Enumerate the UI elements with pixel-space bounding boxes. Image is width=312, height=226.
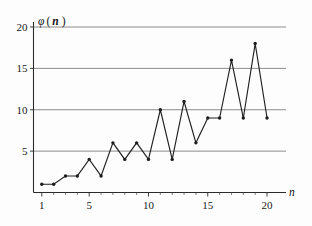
data-point-n12 bbox=[171, 158, 174, 161]
data-point-n16 bbox=[218, 116, 221, 119]
x-tick-marks-group bbox=[42, 193, 267, 197]
data-point-n8 bbox=[123, 158, 126, 161]
data-point-n4 bbox=[76, 174, 79, 177]
y-tick-label-10: 10 bbox=[17, 104, 29, 116]
y-tick-label-15: 15 bbox=[17, 62, 29, 74]
data-point-n1 bbox=[40, 183, 43, 186]
data-point-n7 bbox=[111, 141, 114, 144]
axes-group bbox=[34, 22, 287, 193]
data-point-n15 bbox=[206, 116, 209, 119]
y-axis-title: φ(n) bbox=[38, 15, 66, 28]
data-point-n17 bbox=[230, 58, 233, 61]
x-axis-variable: n bbox=[289, 186, 295, 198]
chart-figure: 5101520 15101520 φ(n) n bbox=[0, 0, 312, 226]
x-tick-label-15: 15 bbox=[202, 199, 214, 211]
data-point-n3 bbox=[64, 174, 67, 177]
data-point-n2 bbox=[52, 183, 55, 186]
data-point-n6 bbox=[99, 174, 102, 177]
x-tick-label-1: 1 bbox=[39, 199, 45, 211]
x-axis-title: n bbox=[289, 186, 295, 198]
data-point-n9 bbox=[135, 141, 138, 144]
x-tick-labels-group: 15101520 bbox=[39, 199, 273, 211]
y-tick-label-5: 5 bbox=[22, 145, 28, 157]
data-point-n19 bbox=[253, 42, 256, 45]
x-tick-label-5: 5 bbox=[86, 199, 92, 211]
x-tick-label-20: 20 bbox=[262, 199, 274, 211]
totient-series-line bbox=[42, 44, 267, 185]
data-point-n13 bbox=[182, 100, 185, 103]
data-point-n20 bbox=[265, 116, 268, 119]
y-tick-label-20: 20 bbox=[17, 21, 29, 33]
y-axis-open-paren: ( bbox=[46, 15, 50, 28]
data-point-n10 bbox=[147, 158, 150, 161]
x-tick-label-10: 10 bbox=[143, 199, 155, 211]
data-point-n5 bbox=[88, 158, 91, 161]
data-points-group bbox=[40, 42, 269, 186]
y-axis-close-paren: ) bbox=[62, 15, 66, 28]
data-point-n14 bbox=[194, 141, 197, 144]
y-axis-phi-symbol: φ bbox=[38, 15, 45, 28]
y-tick-labels-group: 5101520 bbox=[17, 21, 29, 157]
svg-text:φ(n): φ(n) bbox=[38, 15, 66, 28]
totient-line-chart: 5101520 15101520 φ(n) n bbox=[0, 0, 312, 226]
data-point-n11 bbox=[159, 108, 162, 111]
data-point-n18 bbox=[242, 116, 245, 119]
y-axis-variable: n bbox=[52, 15, 58, 27]
